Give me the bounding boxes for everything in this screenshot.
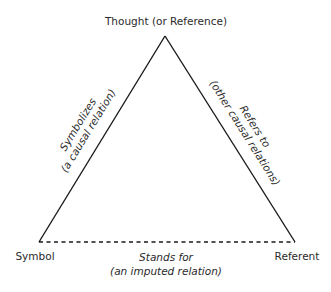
edge-bottom-label-line2: (an imputed relation)	[110, 265, 222, 277]
semiotic-triangle-diagram: Thought (or Reference) Symbol Referent S…	[0, 0, 331, 292]
edge-right-label-line2: (other causal relations)	[208, 78, 283, 188]
node-thought-label: Thought (or Reference)	[104, 15, 227, 27]
edge-right-line	[165, 36, 295, 242]
edge-left-label: Symbolizes (a causal relation)	[48, 81, 118, 175]
node-referent-label: Referent	[275, 250, 320, 262]
edge-left-line	[39, 36, 165, 242]
edge-bottom-label-line1: Stands for	[139, 251, 193, 263]
node-symbol-label: Symbol	[15, 250, 54, 262]
